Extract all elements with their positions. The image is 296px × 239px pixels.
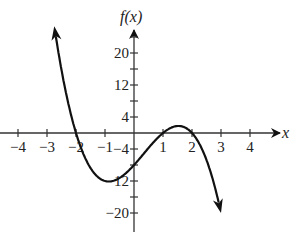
y-axis-label: f(x) [120,8,142,26]
y-tick-label: −20 [106,205,129,221]
y-tick-label: −4 [113,141,129,157]
x-tick-label: 2 [188,139,196,155]
x-tick-label: 1 [159,139,167,155]
x-tick-label: −4 [10,139,26,155]
cubic-function-graph: −4−3−2−11234 20124−4−12−20 x f(x) [0,0,296,239]
x-axis-label: x [281,124,289,141]
x-tick-label: 3 [217,139,225,155]
y-tick-label: 20 [114,45,129,61]
y-tick-label: 12 [114,77,129,93]
x-tick-label: −1 [97,139,113,155]
x-axis-tick-labels: −4−3−2−11234 [10,139,254,155]
x-tick-label: 4 [246,139,254,155]
function-curve [56,37,219,202]
x-tick-label: −3 [39,139,55,155]
y-tick-label: 4 [122,109,130,125]
